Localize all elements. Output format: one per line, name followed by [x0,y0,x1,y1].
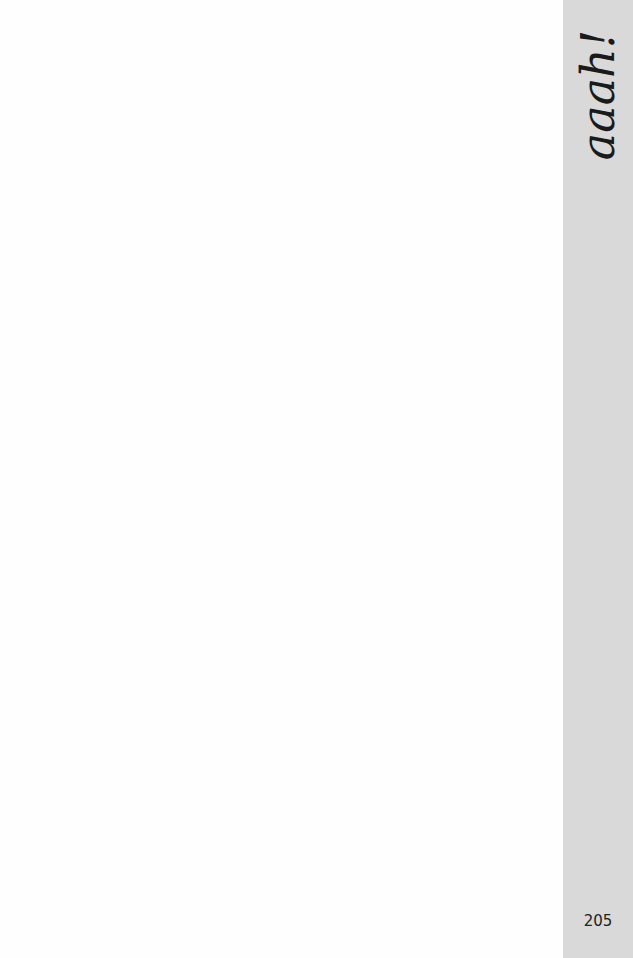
page-body [0,0,563,958]
page-number: 205 [563,912,633,930]
section-title: aaah! [571,30,625,160]
section-side-tab: aaah! 205 [563,0,633,958]
